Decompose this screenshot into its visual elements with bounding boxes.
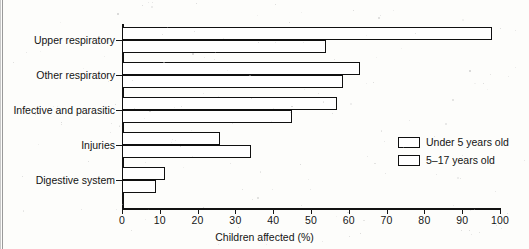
speckle-dot [367,156,368,157]
speckle-dot [119,125,120,126]
speckle-dot [249,75,251,77]
speckle-dot [332,113,333,114]
speckle-dot [104,56,105,57]
x-tick-label: 10 [154,214,166,226]
speckle-dot [301,12,302,13]
speckle-dot [192,53,194,55]
speckle-dot [378,17,380,19]
speckle-dot [380,15,381,16]
speckle-dot [23,210,25,212]
speckle-dot [483,83,484,84]
speckle-dot [353,10,355,12]
speckle-dot [260,171,262,173]
speckle-dot [336,216,337,217]
grouped-bar-chart: 0102030405060708090100 Upper respiratory… [0,0,529,249]
speckle-dot [524,160,525,161]
speckle-dot [469,70,471,72]
speckle-dot [289,22,290,23]
speckle-dot [384,141,385,142]
x-tick-label: 40 [267,214,279,226]
speckle-dot [232,123,233,124]
speckle-dot [301,205,302,206]
speckle-dot [508,76,509,77]
bar [122,27,492,40]
speckle-dot [60,22,61,23]
speckle-dot [59,177,61,179]
speckle-dot [515,67,517,69]
speckle-dot [218,244,219,245]
speckle-dot [196,3,197,4]
speckle-dot [134,108,135,109]
speckle-dot [500,28,501,29]
speckle-dot [501,228,502,229]
speckle-dot [461,230,462,231]
x-tick-label: 100 [491,214,509,226]
x-tick-label: 30 [229,214,241,226]
speckle-dot [148,209,149,210]
speckle-dot [470,210,471,211]
speckle-dot [300,164,301,165]
speckle-dot [218,96,219,97]
speckle-dot [172,139,173,140]
speckle-dot [111,123,112,124]
speckle-dot [272,189,273,190]
bar [122,110,292,123]
x-tick-label: 50 [305,214,317,226]
speckle-dot [145,219,147,221]
x-tick-label: 0 [119,214,125,226]
bar [122,167,165,180]
speckle-dot [487,89,488,90]
speckle-dot [363,220,365,222]
speckle-dot [401,48,402,49]
x-tick-label: 70 [381,214,393,226]
category-label: Upper respiratory [34,34,115,46]
speckle-dot [191,130,192,131]
speckle-dot [192,156,193,157]
category-label: Injuries [81,139,115,151]
speckle-dot [204,57,205,58]
speckle-dot [334,59,335,60]
speckle-dot [108,81,109,82]
speckle-dot [385,173,386,174]
speckle-dot [258,42,259,43]
x-tick-label: 60 [343,214,355,226]
speckle-dot [252,199,254,201]
speckle-dot [304,89,305,90]
legend-label: Under 5 years old [426,136,509,148]
bar [122,180,156,193]
speckle-dot [230,163,231,164]
bar [122,97,337,110]
category-label: Digestive system [36,174,115,186]
speckle-dot [171,142,172,143]
bar [122,75,343,88]
speckle-dot [453,205,454,206]
speckle-dot [152,2,153,3]
speckle-dot [215,52,216,53]
speckle-dot [257,197,259,199]
speckle-dot [238,227,239,228]
bar [122,40,326,53]
speckle-dot [495,191,496,192]
speckle-dot [61,122,62,123]
speckle-dot [409,120,410,121]
speckle-dot [183,167,184,168]
speckle-dot [310,189,311,190]
category-label: Other respiratory [36,69,115,81]
category-label: Infective and parasitic [13,104,115,116]
legend-label: 5–17 years old [426,154,495,166]
speckle-dot [452,99,454,101]
bar [122,62,360,75]
bar [122,145,251,158]
speckle-dot [144,118,145,119]
speckle-dot [350,103,352,105]
speckle-dot [38,144,39,145]
legend-item: Under 5 years old [398,136,509,148]
speckle-dot [273,108,274,109]
speckle-dot [275,4,276,5]
legend-item: 5–17 years old [398,154,509,166]
speckle-dot [148,2,149,3]
speckle-dot [203,93,204,94]
speckle-dot [142,5,143,6]
x-tick-label: 20 [192,214,204,226]
speckle-dot [122,204,123,205]
